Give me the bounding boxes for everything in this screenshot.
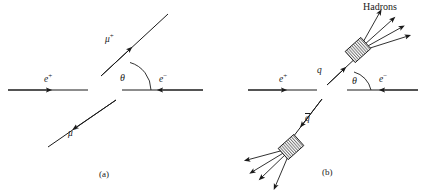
upper-jet-group (345, 12, 408, 63)
antiquark-label-b: q (305, 114, 310, 124)
upper-jet-blob (345, 37, 371, 62)
electron-label-b: e− (379, 73, 387, 85)
caption-b: (b) (322, 168, 333, 177)
diagram-canvas (0, 0, 422, 195)
theta-label-b: θ (352, 76, 357, 86)
panel-b-group (247, 12, 418, 187)
muon-plus-track-a (101, 14, 168, 76)
muon-minus-track-a (48, 100, 116, 147)
quark-label-b: q (317, 66, 322, 76)
positron-label-b: e+ (279, 73, 287, 85)
muon-plus-arrow-a (101, 49, 130, 76)
lower-jet-blob (278, 134, 304, 159)
muon-minus-label-a: μ− (68, 127, 77, 139)
electron-label-a: e− (159, 73, 167, 85)
theta-label-a: θ (120, 73, 125, 83)
hadrons-label: Hadrons (363, 2, 397, 12)
theta-arc-a (130, 63, 151, 91)
muon-plus-label-a: μ+ (105, 33, 114, 45)
caption-a: (a) (99, 170, 109, 179)
upper-jet-arrows (362, 12, 408, 49)
lower-jet-group (247, 134, 304, 187)
quark-arrow-b (327, 69, 344, 85)
physics-figure: e+ e− μ+ μ− θ (a) e+ e− q q θ Hadrons (b… (0, 0, 422, 195)
lower-jet-arrows (247, 150, 289, 187)
muon-minus-arrow-a (75, 100, 116, 128)
positron-label-a: e+ (44, 73, 52, 85)
